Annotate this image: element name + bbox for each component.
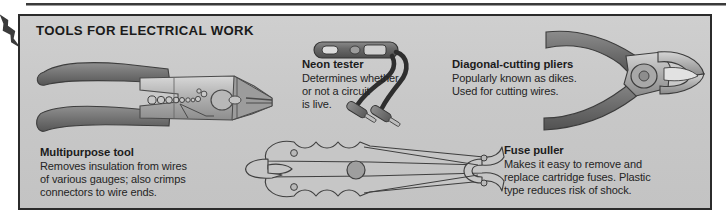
callout-line-2: or not a circuit xyxy=(302,85,399,98)
callout-body: Makes it easy to remove and replace cart… xyxy=(504,158,651,198)
callout-line-3: connectors to wire ends. xyxy=(40,186,187,199)
multipurpose-tool-illustration xyxy=(28,56,278,146)
callout-line-1: Popularly known as dikes. xyxy=(452,72,577,85)
callout-multipurpose-tool: Multipurpose tool Removes insulation fro… xyxy=(40,146,187,200)
callout-neon-tester: Neon tester Determines whether or not a … xyxy=(302,58,399,112)
callout-heading: Neon tester xyxy=(302,58,399,71)
callout-line-3: type reduces risk of shock. xyxy=(504,184,651,197)
callout-line-3: is live. xyxy=(302,98,399,111)
callout-line-2: Used for cutting wires. xyxy=(452,85,577,98)
callout-body: Removes insulation from wires of various… xyxy=(40,160,187,200)
figure-panel: TOOLS FOR ELECTRICAL WORK xyxy=(18,14,712,210)
callout-line-2: of various gauges; also crimps xyxy=(40,173,187,186)
page-rule-top-shadow xyxy=(26,5,726,6)
callout-heading: Fuse puller xyxy=(504,144,651,157)
callout-line-1: Makes it easy to remove and xyxy=(504,158,651,171)
figure-title: TOOLS FOR ELECTRICAL WORK xyxy=(36,23,254,38)
callout-fuse-puller: Fuse puller Makes it easy to remove and … xyxy=(504,144,651,198)
callout-heading: Diagonal-cutting pliers xyxy=(452,58,577,71)
callout-body: Popularly known as dikes. Used for cutti… xyxy=(452,72,577,98)
callout-body: Determines whether or not a circuit is l… xyxy=(302,72,399,112)
callout-diagonal-cutting-pliers: Diagonal-cutting pliers Popularly known … xyxy=(452,58,577,98)
callout-line-2: replace cartridge fuses. Plastic xyxy=(504,171,651,184)
callout-line-1: Determines whether xyxy=(302,72,399,85)
callout-line-1: Removes insulation from wires xyxy=(40,160,187,173)
figure-page: TOOLS FOR ELECTRICAL WORK xyxy=(0,0,728,223)
fuse-puller-illustration xyxy=(238,131,508,203)
callout-heading: Multipurpose tool xyxy=(40,146,187,159)
